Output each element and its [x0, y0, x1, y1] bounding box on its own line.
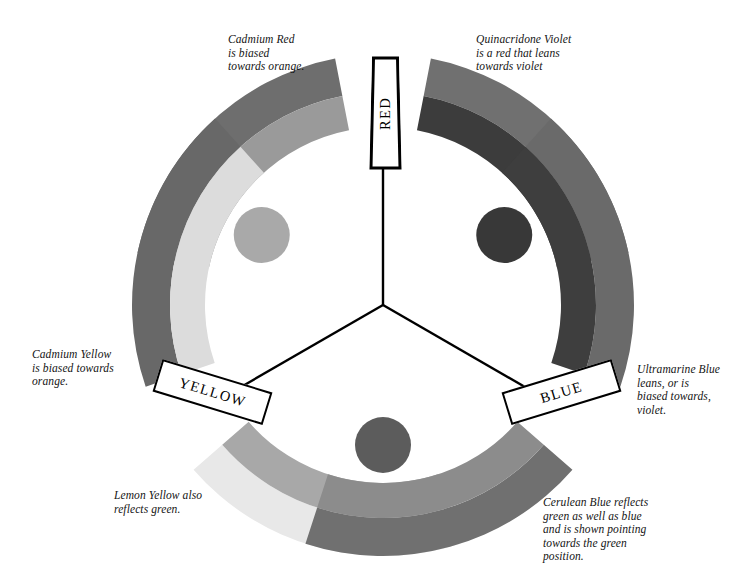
- caption-lemon-yellow: Lemon Yellow also reflects green.: [114, 489, 202, 516]
- orange-position-circle: [234, 207, 290, 263]
- green-position-circle: [355, 417, 411, 473]
- caption-ultramarine-blue: Ultramarine Blue leans, or is biased tow…: [637, 363, 720, 417]
- caption-cadmium-red: Cadmium Red is biased towards orange.: [228, 33, 304, 74]
- label-text-red: RED: [377, 81, 394, 147]
- primary-spokes: [239, 139, 527, 388]
- caption-cadmium-yellow: Cadmium Yellow is biased towards orange.: [32, 348, 114, 389]
- colour-wheel-diagram: RED YELLOW BLUE Cadmium Red is biased to…: [0, 0, 746, 584]
- caption-quinacridone-violet: Quinacridone Violet is a red that leans …: [476, 33, 571, 74]
- violet-position-circle: [476, 207, 532, 263]
- spoke-blue: [383, 305, 527, 388]
- spoke-yellow: [239, 305, 383, 388]
- caption-cerulean-blue: Cerulean Blue reflects green as well as …: [543, 496, 648, 564]
